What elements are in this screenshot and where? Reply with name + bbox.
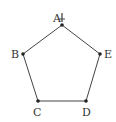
vertex-label-e: E: [104, 48, 112, 61]
vertex-label-d: D: [82, 106, 91, 119]
vertex-label-c: C: [33, 106, 41, 119]
vertex-c: C: [33, 99, 41, 119]
vertex-label-a: A: [52, 12, 62, 25]
vertex-label-b: B: [11, 48, 19, 61]
pentagon-diagram: A B C D E: [0, 0, 116, 122]
vertex-b: B: [11, 48, 25, 61]
pentagon-outline: [23, 25, 100, 101]
vertex-e: E: [98, 48, 112, 61]
vertex-d: D: [82, 99, 91, 119]
